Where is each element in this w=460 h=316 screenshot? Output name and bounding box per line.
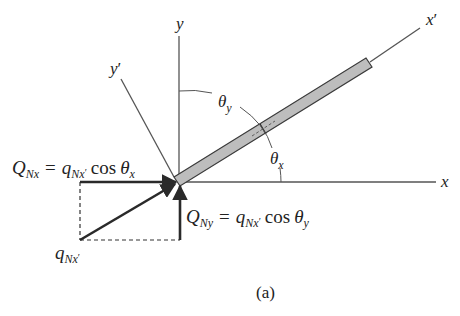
theta-y-label: θy <box>218 92 232 115</box>
q-nx-prime-resultant <box>80 184 175 240</box>
x-prime-axis <box>370 28 420 62</box>
x-prime-axis-label: x′ <box>425 10 437 29</box>
force-component-diagram: y y′ x x′ θy θx QNx=qNx′cosθx QNy=qNx′co… <box>0 0 460 316</box>
theta-y-arc <box>179 90 212 93</box>
figure-caption: (a) <box>256 283 275 302</box>
q-ny-equation: QNy=qNx′cosθy <box>186 206 310 230</box>
y-prime-axis-label: y′ <box>108 59 121 78</box>
x-axis-label: x <box>440 172 449 191</box>
q-nx-prime-label: qNx′ <box>55 242 80 266</box>
q-nx-equation: QNx=qNx′cosθx <box>12 157 136 181</box>
y-axis-label: y <box>174 14 184 33</box>
theta-x-label: θx <box>270 149 284 172</box>
